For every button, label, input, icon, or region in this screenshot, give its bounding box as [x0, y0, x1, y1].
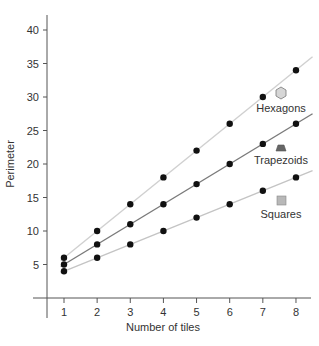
data-point — [127, 201, 133, 207]
data-point — [127, 241, 133, 247]
data-point — [160, 228, 166, 234]
legend-trapezoids: Trapezoids — [254, 145, 309, 166]
y-tick-label: 5 — [33, 259, 39, 271]
data-point — [293, 121, 299, 127]
x-tick-label: 4 — [160, 306, 166, 318]
data-point — [293, 174, 299, 180]
data-point — [94, 255, 100, 261]
y-tick-label: 35 — [27, 58, 39, 70]
data-point — [260, 94, 266, 100]
data-point — [293, 67, 299, 73]
legend-label-squares: Squares — [261, 208, 302, 220]
x-axis-title: Number of tiles — [126, 321, 200, 333]
legend-label-hexagons: Hexagons — [256, 102, 306, 114]
data-point — [160, 174, 166, 180]
legend-squares: Squares — [261, 196, 302, 220]
x-tick-label: 2 — [94, 306, 100, 318]
y-tick-label: 20 — [27, 158, 39, 170]
data-point — [193, 147, 199, 153]
y-tick-label: 15 — [27, 192, 39, 204]
y-axis-title: Perimeter — [4, 140, 16, 188]
hexagon-icon — [276, 87, 286, 99]
y-ticks: 510152025303540 — [27, 24, 47, 271]
square-icon — [277, 196, 286, 205]
data-point — [193, 214, 199, 220]
data-points — [61, 67, 299, 274]
axes — [33, 15, 311, 318]
x-tick-label: 6 — [227, 306, 233, 318]
y-tick-label: 10 — [27, 225, 39, 237]
y-tick-label: 40 — [27, 24, 39, 36]
data-point — [193, 181, 199, 187]
x-tick-label: 5 — [193, 306, 199, 318]
data-point — [227, 121, 233, 127]
data-point — [61, 255, 67, 261]
data-point — [94, 228, 100, 234]
data-point — [127, 221, 133, 227]
trapezoid-icon — [276, 145, 286, 151]
y-tick-label: 30 — [27, 91, 39, 103]
x-tick-label: 3 — [127, 306, 133, 318]
data-point — [227, 161, 233, 167]
data-point — [94, 241, 100, 247]
data-point — [260, 188, 266, 194]
x-tick-label: 8 — [293, 306, 299, 318]
data-point — [160, 201, 166, 207]
legend-label-trapezoids: Trapezoids — [254, 154, 309, 166]
data-point — [260, 141, 266, 147]
data-point — [61, 261, 67, 267]
legend-hexagons: Hexagons — [256, 87, 306, 114]
x-ticks: 12345678 — [61, 298, 299, 318]
perimeter-chart: 510152025303540 12345678 Number of tiles… — [0, 0, 319, 346]
data-point — [61, 268, 67, 274]
x-tick-label: 7 — [260, 306, 266, 318]
inline-legend: Hexagons Trapezoids Squares — [254, 87, 309, 220]
x-tick-label: 1 — [61, 306, 67, 318]
y-tick-label: 25 — [27, 125, 39, 137]
data-point — [227, 201, 233, 207]
